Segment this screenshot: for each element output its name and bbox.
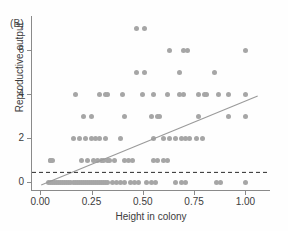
x-tick [40, 191, 41, 195]
y-tick [27, 94, 31, 95]
scatter-point [226, 114, 231, 119]
y-tick-label: 6 [6, 44, 24, 55]
scatter-point [196, 92, 201, 97]
scatter-point [118, 136, 123, 141]
scatter-point [173, 136, 178, 141]
x-axis-spine [31, 190, 270, 191]
scatter-point [134, 26, 139, 31]
scatter-point [130, 158, 135, 163]
scatter-point [177, 70, 182, 75]
scatter-point [204, 92, 209, 97]
y-tick-label: 2 [6, 132, 24, 143]
x-tick [143, 191, 144, 195]
scatter-point [97, 92, 102, 97]
y-axis-spine [31, 16, 32, 191]
scatter-point [161, 136, 166, 141]
scatter-point [140, 92, 145, 97]
figure-panel-b: (B) Reproductive output Height in colony… [0, 0, 288, 231]
scatter-point [122, 180, 127, 185]
scatter-point [153, 180, 158, 185]
scatter-point [83, 136, 88, 141]
scatter-point [243, 48, 248, 53]
scatter-point [142, 26, 147, 31]
y-tick [27, 50, 31, 51]
x-tick-label: 0.25 [72, 196, 112, 207]
scatter-point [142, 70, 147, 75]
scatter-point [173, 180, 178, 185]
scatter-point [181, 92, 186, 97]
scatter-point [81, 114, 86, 119]
x-tick [245, 191, 246, 195]
scatter-point [112, 158, 117, 163]
scatter-point [216, 92, 221, 97]
scatter-point [212, 70, 217, 75]
scatter-point [79, 158, 84, 163]
scatter-point [105, 92, 110, 97]
scatter-point [122, 114, 127, 119]
scatter-point [243, 114, 248, 119]
y-axis-label: Reproductive output [14, 3, 25, 133]
scatter-point [185, 48, 190, 53]
x-tick-label: 0.50 [123, 196, 163, 207]
scatter-point [134, 70, 139, 75]
scatter-point [194, 136, 199, 141]
scatter-point [151, 136, 156, 141]
y-tick-label: 4 [6, 88, 24, 99]
scatter-point [167, 136, 172, 141]
x-tick [92, 191, 93, 195]
scatter-point [200, 136, 205, 141]
scatter-point [155, 158, 160, 163]
y-tick-label: 0 [6, 176, 24, 187]
scatter-point [120, 92, 125, 97]
x-tick-label: 0.75 [174, 196, 214, 207]
x-axis-label: Height in colony [32, 211, 270, 222]
scatter-point [218, 180, 223, 185]
y-tick [27, 182, 31, 183]
y-tick [27, 138, 31, 139]
x-tick-label: 1.00 [225, 196, 265, 207]
scatter-point [157, 114, 162, 119]
scatter-point [226, 92, 231, 97]
scatter-point [196, 114, 201, 119]
scatter-point [71, 136, 76, 141]
scatter-point [103, 136, 108, 141]
scatter-point [243, 180, 248, 185]
scatter-point [243, 92, 248, 97]
scatter-point [183, 180, 188, 185]
scatter-point [85, 158, 90, 163]
scatter-point [77, 136, 82, 141]
x-tick [194, 191, 195, 195]
scatter-point [48, 158, 53, 163]
scatter-point [136, 180, 141, 185]
scatter-point [167, 48, 172, 53]
scatter-point [151, 92, 156, 97]
scatter-point [187, 136, 192, 141]
scatter-point [97, 136, 102, 141]
scatter-point [165, 158, 170, 163]
x-tick-label: 0.00 [20, 196, 60, 207]
scatter-point [149, 114, 154, 119]
scatter-point [165, 92, 170, 97]
scatter-point [89, 114, 94, 119]
scatter-point [73, 92, 78, 97]
